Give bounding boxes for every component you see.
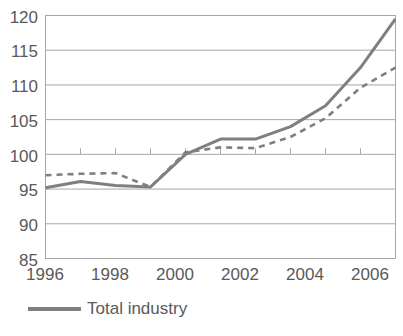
legend: Total industry — [28, 300, 187, 317]
y-axis-tick-label: 90 — [0, 217, 38, 234]
legend-label-total-industry: Total industry — [87, 300, 187, 317]
x-axis-tick-label: 1996 — [17, 266, 73, 283]
y-axis-tick-label: 110 — [0, 78, 38, 95]
x-axis-tick-label: 2006 — [342, 266, 398, 283]
y-axis-tick-label: 100 — [0, 148, 38, 165]
y-axis-tick-label: 95 — [0, 182, 38, 199]
gridlines — [46, 50, 396, 224]
y-axis-tick-label: 120 — [0, 9, 38, 26]
plot-area — [45, 15, 396, 259]
x-axis-tick-label: 1998 — [82, 266, 138, 283]
plot-frame — [46, 16, 396, 259]
y-axis-tick-label: 105 — [0, 113, 38, 130]
x-axis-tick-label: 2000 — [147, 266, 203, 283]
x-axis-tick-marks — [46, 148, 396, 154]
x-axis-tick-label: 2004 — [277, 266, 333, 283]
series-line-total-industry — [46, 19, 396, 188]
y-axis-tick-label: 115 — [0, 43, 38, 60]
line-chart: 120 115 110 105 100 95 90 85 1996 1998 2… — [0, 0, 403, 336]
plot-svg — [45, 15, 396, 259]
x-axis-tick-label: 2002 — [212, 266, 268, 283]
legend-swatch-total-industry — [28, 307, 81, 311]
